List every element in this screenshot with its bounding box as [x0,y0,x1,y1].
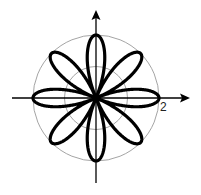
polar-rose-plot [0,0,201,195]
radius-tick-label: 2 [160,101,167,113]
